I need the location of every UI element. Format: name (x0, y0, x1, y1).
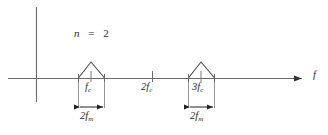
dimension-label-2fm-second: 2fm (190, 111, 203, 123)
tick-label-2fc-main: 2f (141, 81, 149, 92)
dimension-label-2fm-first: 2fm (80, 111, 93, 123)
annotation-equals: = (88, 27, 95, 39)
annotation-n-equals-2: n = 2 (74, 28, 109, 39)
annotation-variable: n (74, 27, 80, 39)
tick-label-fc-sub: c (88, 86, 91, 94)
tick-label-fc: fc (85, 82, 91, 94)
dimension-label-2fm-second-main: 2f (190, 110, 198, 121)
tick-label-2fc: 2fc (141, 82, 152, 94)
tick-label-3fc-main: 3f (192, 81, 200, 92)
tick-label-2fc-sub: c (149, 86, 152, 94)
x-axis-label: f (313, 70, 316, 81)
spectrum-figure: n = 2 fc 2fc 3fc 2fm 2fm f (0, 0, 328, 135)
dimension-label-2fm-first-sub: m (88, 115, 93, 123)
tick-label-3fc: 3fc (192, 82, 203, 94)
dimension-label-2fm-first-main: 2f (80, 110, 88, 121)
annotation-value: 2 (103, 27, 109, 39)
dimension-label-2fm-second-sub: m (198, 115, 203, 123)
tick-label-3fc-sub: c (200, 86, 203, 94)
spectrum-svg (0, 0, 328, 135)
